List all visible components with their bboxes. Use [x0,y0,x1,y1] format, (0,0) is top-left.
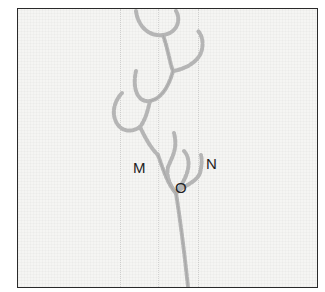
label-m: M [133,160,146,175]
stitch-illustration [18,9,317,287]
label-n: N [206,156,217,171]
figure-frame: M N O [17,8,318,288]
label-o: O [175,180,187,195]
